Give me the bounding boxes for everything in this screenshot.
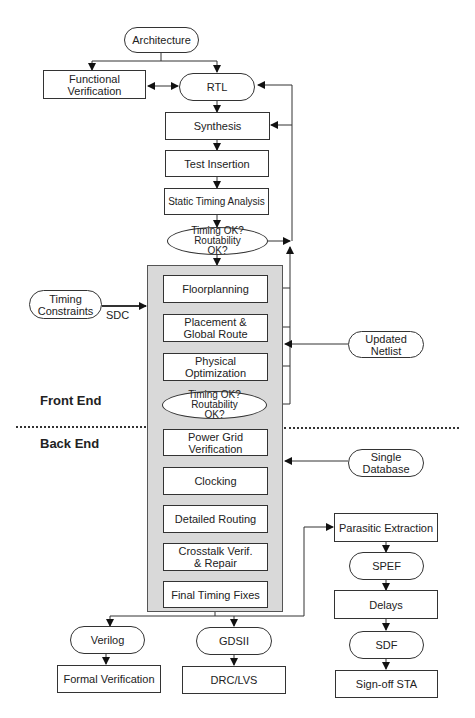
node-formal-verification: Formal Verification xyxy=(57,665,161,693)
node-single-database: Single Database xyxy=(348,449,424,477)
node-gdsii: GDSII xyxy=(196,627,272,655)
front-back-divider-left xyxy=(16,426,146,428)
node-power-grid-verification: Power Grid Verification xyxy=(163,429,268,456)
node-physical-optimization: Physical Optimization xyxy=(163,353,268,381)
node-sdf: SDF xyxy=(349,631,424,659)
front-end-label: Front End xyxy=(40,393,101,408)
node-parasitic-extraction: Parasitic Extraction xyxy=(334,513,438,542)
node-timing-check-1: Timing OK? Routability OK? xyxy=(167,227,268,255)
node-updated-netlist: Updated Netlist xyxy=(348,331,424,358)
node-static-timing-analysis: Static Timing Analysis xyxy=(164,188,269,215)
front-back-divider-right xyxy=(284,427,459,429)
node-spef: SPEF xyxy=(349,552,424,580)
sdc-label: SDC xyxy=(106,309,129,321)
node-test-insertion: Test Insertion xyxy=(165,150,269,177)
node-timing-constraints: Timing Constraints xyxy=(29,290,102,319)
node-synthesis: Synthesis xyxy=(165,112,270,140)
node-clocking: Clocking xyxy=(163,467,268,495)
node-placement-global-route: Placement & Global Route xyxy=(163,314,268,342)
node-final-timing-fixes: Final Timing Fixes xyxy=(163,581,268,608)
node-rtl: RTL xyxy=(179,73,255,101)
node-verilog: Verilog xyxy=(70,626,145,654)
node-functional-verification: Functional Verification xyxy=(43,70,146,99)
node-crosstalk-repair: Crosstalk Verif. & Repair xyxy=(163,543,268,571)
node-signoff-sta: Sign-off STA xyxy=(335,670,438,698)
back-end-label: Back End xyxy=(40,436,99,451)
node-architecture: Architecture xyxy=(124,27,199,53)
node-detailed-routing: Detailed Routing xyxy=(163,505,268,533)
node-timing-check-2: Timing OK? Routability OK? xyxy=(162,391,267,419)
node-delays: Delays xyxy=(334,590,438,619)
node-floorplanning: Floorplanning xyxy=(163,275,268,303)
node-drc-lvs: DRC/LVS xyxy=(182,666,286,694)
